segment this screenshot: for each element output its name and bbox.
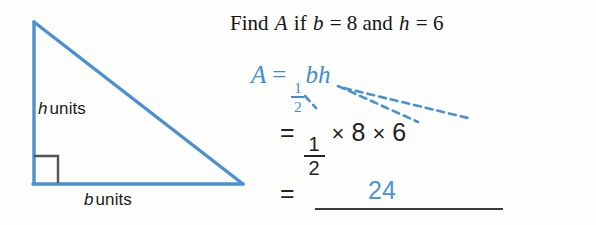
substitution-one-half-fraction: 12 bbox=[304, 134, 325, 178]
base-variable: b bbox=[84, 190, 96, 209]
triangle-figure-panel: hunits bunits bbox=[0, 0, 268, 225]
formula-numerator: 1 bbox=[294, 80, 302, 97]
substitution-line: =12×8×6 bbox=[280, 120, 406, 178]
problem-prompt: Find A if b = 8 and h = 6 bbox=[230, 11, 443, 36]
answer-blank[interactable]: 24 bbox=[315, 176, 503, 210]
formula-equals: = bbox=[266, 61, 290, 88]
prompt-height-symbol: h bbox=[398, 11, 411, 35]
prompt-equals-1: = bbox=[330, 11, 342, 35]
height-unit-text: units bbox=[50, 99, 86, 118]
connector-b-to-8 bbox=[338, 86, 418, 122]
formula-one-half-fraction: 12 bbox=[291, 80, 304, 115]
prompt-equals-2: = bbox=[416, 11, 428, 35]
connector-h-to-6 bbox=[344, 88, 468, 118]
answer-rule-line bbox=[315, 208, 503, 210]
base-unit-text: units bbox=[96, 190, 132, 209]
prompt-area-symbol: A bbox=[274, 11, 289, 35]
prompt-and-text: and bbox=[363, 11, 393, 35]
height-variable: h bbox=[38, 99, 50, 118]
substitution-equals: = bbox=[280, 118, 304, 146]
prompt-height-value: 6 bbox=[433, 11, 444, 35]
formula-variables: bh bbox=[305, 61, 330, 88]
substitution-numerator: 1 bbox=[309, 134, 320, 155]
height-label: hunits bbox=[38, 99, 86, 119]
formula-denominator: 2 bbox=[294, 98, 302, 115]
area-of-triangle-worksheet: hunits bunits Find A if b = 8 and h = 6 … bbox=[0, 0, 596, 225]
base-label: bunits bbox=[84, 190, 132, 210]
answer-value: 24 bbox=[368, 176, 396, 205]
solution-work-panel: Find A if b = 8 and h = 6 A=12bh =12×8×6… bbox=[268, 0, 596, 225]
prompt-base-value: 8 bbox=[347, 11, 358, 35]
formula-lhs: A bbox=[251, 61, 266, 88]
substitution-height-value: 6 bbox=[392, 118, 406, 146]
formula-line: A=12bh bbox=[251, 62, 330, 115]
substitution-times-1: × bbox=[325, 121, 352, 146]
right-angle-marker-icon bbox=[34, 156, 58, 183]
prompt-find-text: Find bbox=[230, 11, 269, 35]
prompt-base-symbol: b bbox=[312, 11, 325, 35]
prompt-if-text: if bbox=[294, 11, 307, 35]
substitution-base-value: 8 bbox=[351, 118, 365, 146]
substitution-denominator: 2 bbox=[309, 157, 320, 178]
substitution-times-2: × bbox=[365, 121, 392, 146]
result-equals: = bbox=[280, 181, 295, 206]
